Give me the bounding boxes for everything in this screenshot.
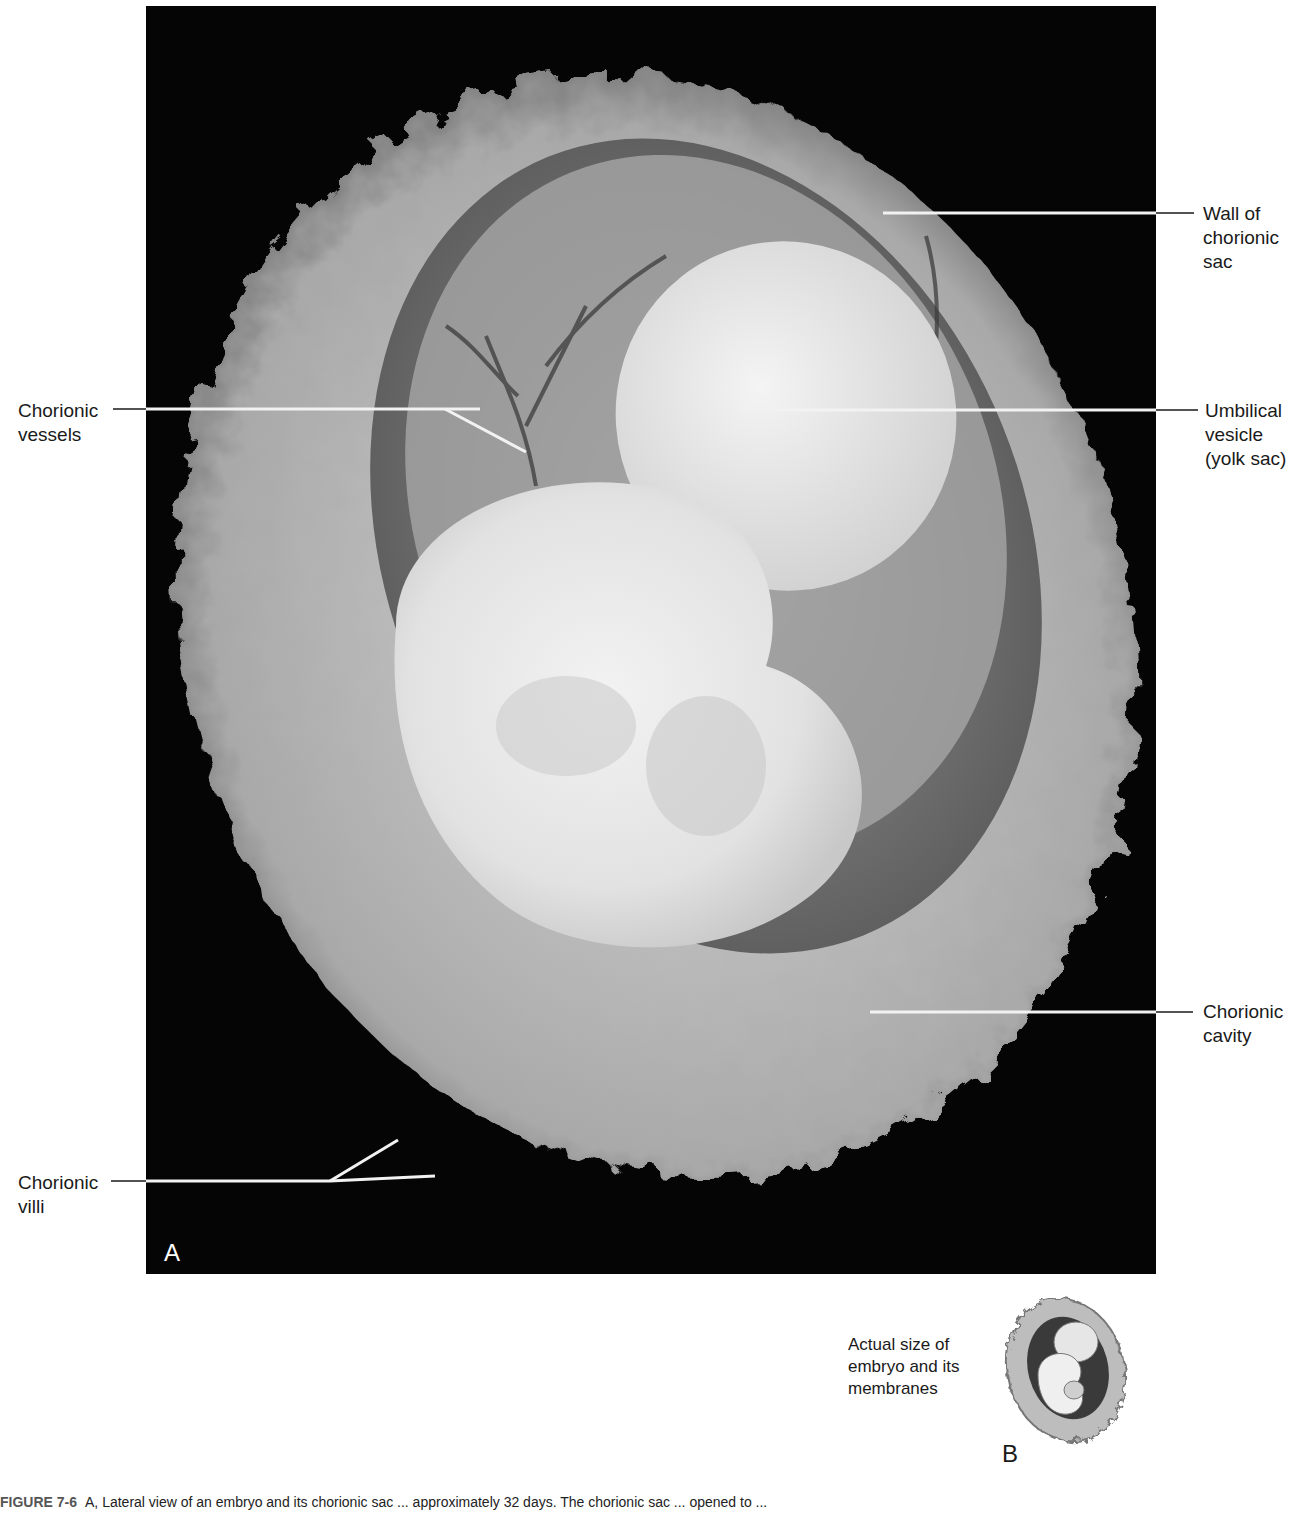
panel-a-letter: A: [164, 1239, 180, 1267]
label-wall-of-chorionic-sac: Wall of chorionic sac: [1203, 202, 1279, 274]
label-chorionic-vessels: Chorionic vessels: [18, 399, 98, 447]
photo-panel-a: A: [146, 6, 1156, 1274]
embryo-photo: [146, 6, 1156, 1274]
panel-b-letter: B: [1002, 1440, 1018, 1468]
label-umbilical-vesicle: Umbilical vesicle (yolk sac): [1205, 399, 1286, 471]
label-chorionic-villi: Chorionic villi: [18, 1171, 98, 1219]
label-chorionic-cavity: Chorionic cavity: [1203, 1000, 1283, 1048]
inset-embryo-illustration: [996, 1290, 1136, 1450]
inset-description: Actual size of embryo and its membranes: [848, 1334, 960, 1400]
figure-caption: FIGURE 7-6A, Lateral view of an embryo a…: [0, 1494, 1314, 1514]
caption-text: A, Lateral view of an embryo and its cho…: [85, 1494, 767, 1510]
caption-label: FIGURE 7-6: [0, 1494, 77, 1510]
